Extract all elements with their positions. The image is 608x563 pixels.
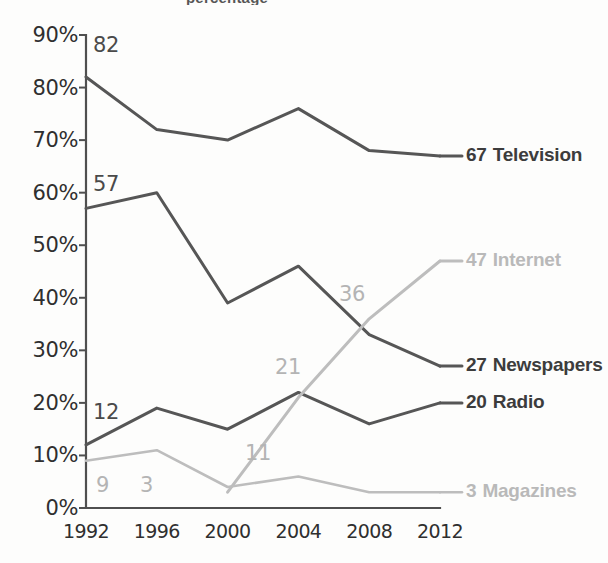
series-label-name: Television <box>493 144 583 165</box>
series-line-television <box>86 77 440 156</box>
point-value-label: 3 <box>140 473 153 497</box>
series-label-value: 20 <box>466 391 487 412</box>
point-value-label: 12 <box>93 400 119 424</box>
y-tick-label: 70% <box>0 128 78 152</box>
point-value-label: 9 <box>96 473 109 497</box>
series-label-newspapers: 27Newspapers <box>466 354 603 376</box>
x-tick-label: 2000 <box>205 520 251 542</box>
series-line-radio <box>86 392 440 445</box>
x-tick-label: 1996 <box>134 520 180 542</box>
x-tick-label: 1992 <box>63 520 109 542</box>
series-label-value: 27 <box>466 354 487 375</box>
y-tick-label: 80% <box>0 76 78 100</box>
y-tick-label: 0% <box>0 496 78 520</box>
x-tick-label: 2012 <box>417 520 463 542</box>
series-label-name: Newspapers <box>493 354 603 375</box>
series-label-television: 67Television <box>466 144 582 166</box>
x-tick-label: 2004 <box>275 520 321 542</box>
y-tick-label: 30% <box>0 338 78 362</box>
x-tick-label: 2008 <box>346 520 392 542</box>
y-tick-label: 90% <box>0 23 78 47</box>
series-label-radio: 20Radio <box>466 391 545 413</box>
series-line-newspapers <box>86 193 440 366</box>
series-label-value: 47 <box>466 249 487 270</box>
y-tick-label: 10% <box>0 443 78 467</box>
y-tick-label: 50% <box>0 233 78 257</box>
series-layer <box>86 77 462 492</box>
point-value-label: 82 <box>93 33 119 57</box>
axis-layer <box>79 35 440 508</box>
point-value-label: 57 <box>93 172 119 196</box>
point-value-label: 36 <box>339 282 365 306</box>
y-tick-label: 60% <box>0 181 78 205</box>
series-label-name: Internet <box>493 249 561 270</box>
series-label-name: Magazines <box>482 480 576 501</box>
point-value-label: 21 <box>275 355 301 379</box>
series-label-value: 3 <box>466 480 476 501</box>
series-label-internet: 47Internet <box>466 249 561 271</box>
series-label-name: Radio <box>493 391 545 412</box>
series-label-magazines: 3Magazines <box>466 480 577 502</box>
series-label-value: 67 <box>466 144 487 165</box>
chart-page: percentage 0%10%20%30%40%50%60%70%80%90%… <box>0 0 608 563</box>
point-value-label: 11 <box>245 441 271 465</box>
y-tick-label: 20% <box>0 391 78 415</box>
y-tick-label: 40% <box>0 286 78 310</box>
line-chart-plot <box>0 0 608 563</box>
